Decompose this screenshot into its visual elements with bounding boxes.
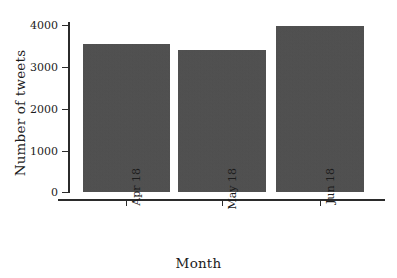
y-tick-label-1000: 1000	[0, 146, 58, 157]
x-tick-mark-apr-18	[126, 200, 127, 206]
bar-chart-figure: Number of tweets 4000 3000 2000 1000 0 A…	[0, 0, 397, 278]
y-tick-label-4000: 4000	[0, 20, 58, 31]
x-tick-mark-may-18	[222, 200, 223, 206]
bar-apr-18	[83, 44, 170, 192]
x-tick-mark-jun-18	[320, 200, 321, 206]
x-axis-title: Month	[0, 255, 397, 271]
y-tick-label-0: 0	[0, 187, 58, 198]
bar-may-18	[178, 50, 266, 192]
bar-jun-18	[276, 26, 364, 192]
y-axis-line	[68, 22, 70, 193]
x-tick-label-apr-18: Apr 18	[131, 168, 142, 248]
y-tick-label-2000: 2000	[0, 104, 58, 115]
x-tick-label-may-18: May 18	[227, 168, 238, 248]
y-tick-label-3000: 3000	[0, 62, 58, 73]
x-tick-label-jun-18: Jun 18	[325, 168, 336, 248]
